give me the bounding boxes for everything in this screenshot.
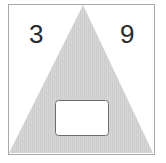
right-number: 9 (120, 21, 134, 47)
left-number: 3 (29, 21, 43, 47)
answer-box[interactable] (56, 101, 109, 136)
triangle-diagram (0, 0, 166, 163)
